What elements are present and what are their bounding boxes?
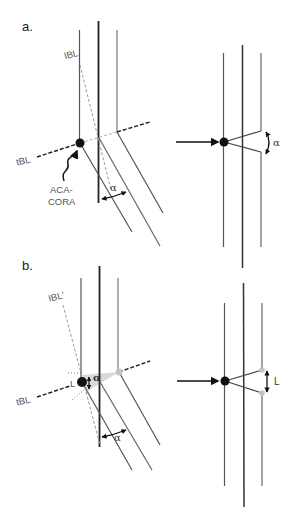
gray-dot-bottom [259,390,265,396]
angle-arc-arrow [102,192,126,199]
ibl-label: IBL [63,47,80,61]
l-label-left: L [70,378,75,389]
right-line-diagonal [119,372,160,445]
tbl-label: tBL [15,154,31,168]
middle-line-diagonal [100,382,152,470]
pivot-dot [221,377,230,386]
dotted-guide-bottom [72,390,84,400]
alpha-label-right: α [273,137,280,148]
aca-label-line1: ACA- [50,184,73,195]
ibl-prime-label: IBL′ [47,289,65,304]
panel-a-right: α [220,45,281,268]
pivot-dot [77,377,87,387]
middle-axis-line [244,283,245,507]
left-line-diagonal [83,384,132,470]
left-line-diagonal [80,143,132,232]
gray-dot-top [259,367,265,373]
angle-arc-arrow [266,132,269,154]
tbl-label: tBL [15,394,31,408]
aca-cora-dot [76,139,85,148]
tbl-dashed-left [37,386,70,397]
diagram-canvas: a. IBL tBL ACA- CORA α [0,0,298,523]
tbl-dashed-right [117,122,150,132]
alpha-label: α [110,182,117,193]
panel-a-label: a. [22,19,33,34]
ibl-dashed-line [80,65,111,190]
length-label: L [274,376,280,387]
panel-b-right: L [221,283,281,507]
alpha-label: α [114,432,121,443]
panel-a-left: a. IBL tBL ACA- CORA α [15,19,163,246]
gray-dot [116,369,123,376]
panel-b-label: b. [22,258,33,273]
aca-label-line2: CORA [48,196,76,207]
alpha-small-label: α [93,372,101,383]
tbl-dashed-right [119,361,150,372]
squiggle-arrow-icon [63,151,77,181]
panel-b-left: b. IBL′ tBL L α α [15,258,160,470]
right-line-diagonal [117,132,163,213]
pivot-dot [220,138,229,147]
